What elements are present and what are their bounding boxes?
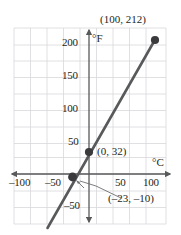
graph-figure: °F °C 200 150 100 50 –50 –100 –50 50 100… bbox=[0, 0, 181, 235]
annotation-lower-point: (–23, –10) bbox=[108, 192, 154, 204]
annotation-top-point: (100, 212) bbox=[100, 13, 146, 25]
x-tick-neg50: –50 bbox=[45, 176, 61, 188]
data-point-neg23-neg10 bbox=[68, 173, 77, 182]
x-tick-neg100: –100 bbox=[9, 176, 30, 188]
data-point-0-32 bbox=[85, 148, 93, 156]
y-axis-label: °F bbox=[92, 32, 103, 44]
y-tick-150: 150 bbox=[62, 69, 78, 81]
y-tick-50: 50 bbox=[68, 135, 79, 147]
x-tick-100: 100 bbox=[143, 176, 159, 188]
y-tick-200: 200 bbox=[62, 36, 78, 48]
data-point-100-212 bbox=[151, 36, 159, 44]
x-tick-50: 50 bbox=[115, 176, 126, 188]
y-tick-neg50: –50 bbox=[64, 199, 80, 211]
annotation-y-intercept: (0, 32) bbox=[97, 145, 126, 157]
x-axis-label: °C bbox=[152, 156, 164, 168]
y-tick-100: 100 bbox=[62, 102, 78, 114]
